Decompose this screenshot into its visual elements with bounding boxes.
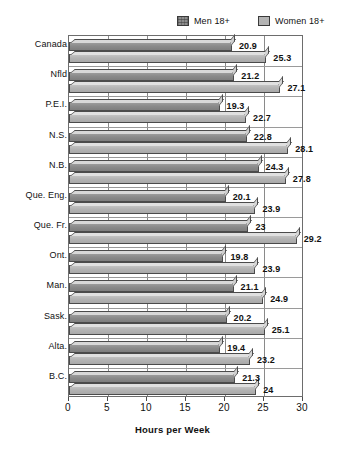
value-label-women-n-s: 28.1 (295, 144, 313, 154)
bar-women-alta (69, 356, 250, 365)
x-tick-30 (302, 397, 303, 401)
x-tick-10 (146, 397, 147, 401)
chart-legend: Men 18+ Women 18+ (0, 16, 345, 30)
bar-women-n-s (69, 145, 288, 154)
value-label-women-p-e-i: 22.7 (253, 113, 271, 123)
value-label-men-alta: 19.4 (227, 343, 245, 353)
bar-women-que-eng (69, 205, 255, 214)
bar-women-canada (69, 54, 266, 63)
value-label-women-que-fr: 29.2 (304, 234, 322, 244)
x-tick-label-15: 15 (170, 402, 200, 413)
category-label-man: Man. (47, 280, 67, 290)
legend-item-men: Men 18+ (177, 16, 230, 26)
x-tick-label-30: 30 (287, 402, 317, 413)
value-label-women-n-b: 27.8 (293, 174, 311, 184)
value-label-men-que-fr: 23 (255, 222, 265, 232)
value-label-men-nfld: 21.2 (241, 71, 259, 81)
bar-women-n-b (69, 175, 286, 184)
bar-men-p-e-i (69, 102, 220, 111)
x-tick-label-25: 25 (248, 402, 278, 413)
x-tick-label-10: 10 (131, 402, 161, 413)
bar-men-que-eng (69, 193, 226, 202)
legend-label-men: Men 18+ (194, 16, 230, 26)
bar-women-sask (69, 326, 265, 335)
women-swatch-icon (258, 16, 270, 26)
bar-men-b-c (69, 374, 235, 383)
x-tick-label-0: 0 (53, 402, 83, 413)
x-tick-5 (107, 397, 108, 401)
value-label-women-nfld: 27.1 (287, 83, 305, 93)
row-separator (69, 66, 302, 67)
bar-women-ont (69, 265, 255, 274)
value-label-men-n-b: 24.3 (266, 162, 284, 172)
row-separator (69, 368, 302, 369)
grouped-bar-chart: Men 18+ Women 18+ 20.925.3Canada21.227.1… (0, 0, 345, 449)
bar-men-n-s (69, 133, 247, 142)
value-label-men-b-c: 21.3 (242, 373, 260, 383)
value-label-women-que-eng: 23.9 (262, 204, 280, 214)
value-label-women-ont: 23.9 (262, 264, 280, 274)
value-label-men-sask: 20.2 (234, 313, 252, 323)
x-tick-20 (224, 397, 225, 401)
bar-men-ont (69, 253, 223, 262)
x-tick-0 (68, 397, 69, 401)
row-separator (69, 277, 302, 278)
category-label-n-s: N.S. (49, 130, 67, 140)
category-label-sask: Sask. (44, 311, 67, 321)
bar-men-sask (69, 314, 227, 323)
row-separator (69, 338, 302, 339)
x-tick-25 (263, 397, 264, 401)
bar-women-p-e-i (69, 114, 246, 123)
men-swatch-icon (177, 16, 189, 26)
bar-men-nfld (69, 72, 234, 81)
value-label-men-p-e-i: 19.3 (227, 101, 245, 111)
row-separator (69, 247, 302, 248)
category-label-ont: Ont. (50, 250, 67, 260)
legend-item-women: Women 18+ (258, 16, 325, 26)
bar-men-man (69, 283, 234, 292)
category-label-alta: Alta. (48, 341, 67, 351)
row-separator (69, 127, 302, 128)
bar-women-que-fr (69, 235, 297, 244)
value-label-men-man: 21.1 (241, 282, 259, 292)
row-separator (69, 96, 302, 97)
bar-men-que-fr (69, 223, 248, 232)
bar-women-nfld (69, 84, 280, 93)
x-tick-label-20: 20 (209, 402, 239, 413)
row-separator (69, 217, 302, 218)
value-label-men-que-eng: 20.1 (233, 192, 251, 202)
category-label-n-b: N.B. (49, 160, 67, 170)
category-label-que-eng: Que. Eng. (26, 190, 67, 200)
bar-women-man (69, 295, 263, 304)
value-label-men-n-s: 22.8 (254, 132, 272, 142)
value-label-women-sask: 25.1 (272, 325, 290, 335)
bar-men-canada (69, 42, 232, 51)
x-axis-title: Hours per Week (0, 424, 345, 435)
value-label-men-canada: 20.9 (239, 41, 257, 51)
row-separator (69, 308, 302, 309)
value-label-women-man: 24.9 (270, 294, 288, 304)
bar-men-n-b (69, 163, 259, 172)
value-label-women-alta: 23.2 (257, 355, 275, 365)
category-label-nfld: Nfld (51, 69, 67, 79)
x-tick-15 (185, 397, 186, 401)
bar-women-b-c (69, 386, 256, 395)
plot-area (68, 35, 303, 397)
category-label-b-c: B.C. (49, 371, 67, 381)
legend-label-women: Women 18+ (275, 16, 325, 26)
value-label-women-b-c: 24 (263, 385, 273, 395)
category-label-canada: Canada (35, 39, 67, 49)
value-label-women-canada: 25.3 (273, 53, 291, 63)
row-separator (69, 187, 302, 188)
category-label-que-fr: Que. Fr. (34, 220, 67, 230)
row-separator (69, 157, 302, 158)
value-label-men-ont: 19.8 (230, 252, 248, 262)
bar-men-alta (69, 344, 220, 353)
category-label-p-e-i: P.E.I. (46, 99, 67, 109)
x-tick-label-5: 5 (92, 402, 122, 413)
